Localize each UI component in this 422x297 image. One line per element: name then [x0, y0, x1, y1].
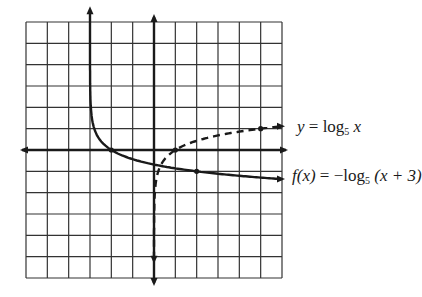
log5-point	[258, 126, 263, 131]
log5-equation-label: y = log5 x	[297, 117, 361, 137]
y-axis-up-arrow-icon	[151, 14, 158, 22]
log5-down-arrow-icon	[151, 256, 158, 264]
f-arg: (x)	[297, 166, 316, 185]
f-point	[109, 147, 114, 152]
y-var: y	[297, 117, 305, 136]
x-var: x	[349, 117, 361, 136]
curves	[87, 6, 285, 263]
f-right-arrow-icon	[277, 176, 285, 183]
log5-point	[173, 147, 178, 152]
x-axis-left-arrow-icon	[20, 147, 28, 154]
f-up-arrow-icon	[87, 6, 94, 14]
x-plus-3: (x + 3)	[370, 166, 422, 185]
y-axis-down-arrow-icon	[151, 278, 158, 286]
f-curve	[90, 11, 282, 179]
f-equation-label: f(x) = −log5 (x + 3)	[292, 166, 422, 186]
f-point	[194, 169, 199, 174]
x-axis-right-arrow-icon	[280, 147, 288, 154]
equals-neg-log: = −log	[316, 166, 365, 185]
equals-log: = log	[305, 117, 345, 136]
